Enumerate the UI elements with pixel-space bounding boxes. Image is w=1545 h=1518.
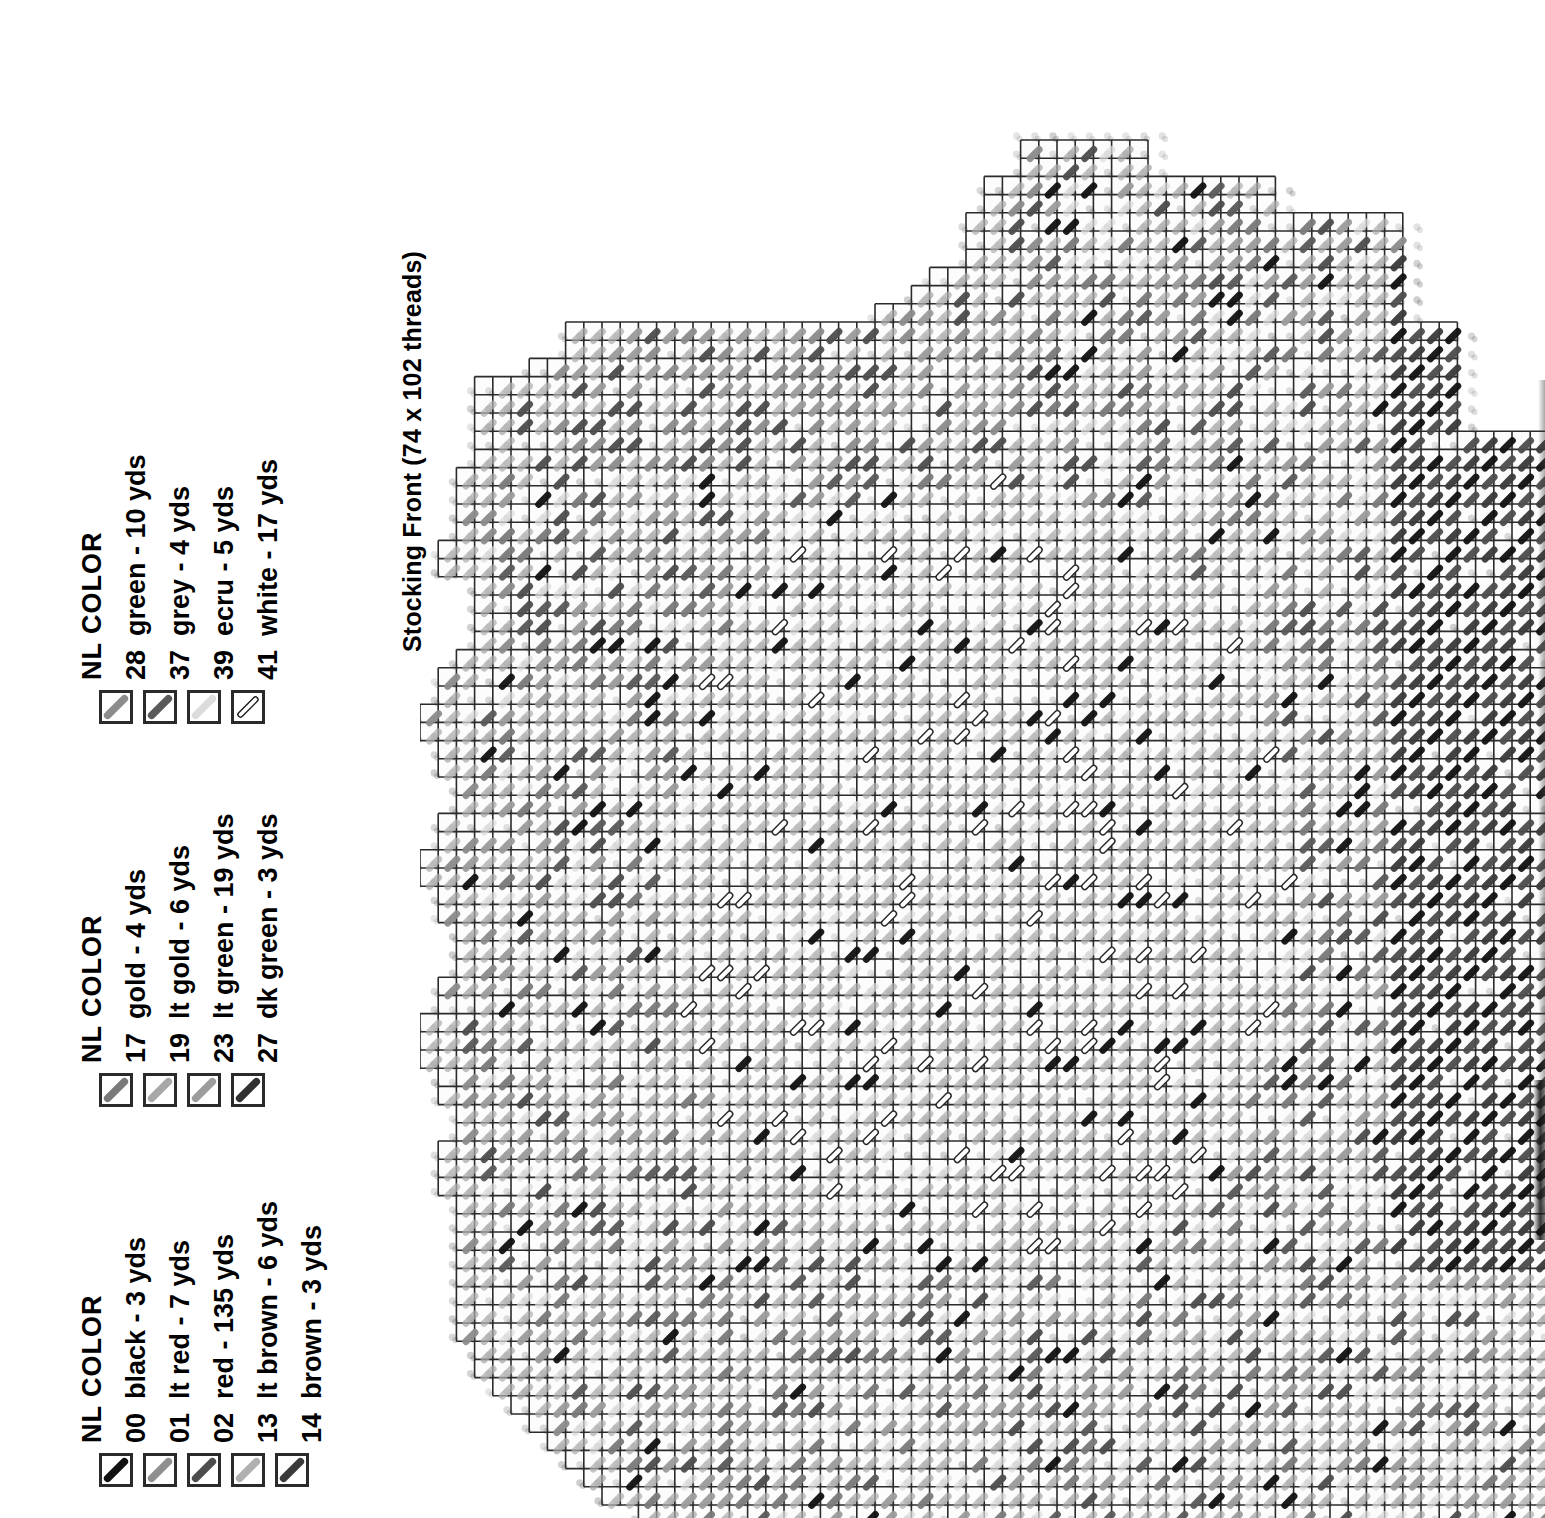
legend-entry-label: 17gold - 4 yds — [121, 869, 152, 1063]
legend-entry-color-name: lt gold - 6 yds — [165, 845, 195, 1019]
stitch-glyph-icon — [234, 1456, 262, 1484]
scan-edge-dark — [1533, 1080, 1545, 1240]
legend-entry-label: 39ecru - 5 yds — [209, 486, 240, 680]
legend-header: NL COLOR — [77, 1295, 108, 1444]
legend-entry-number: 01 — [165, 1399, 196, 1443]
legend-swatch-28 — [99, 690, 133, 724]
legend-entry-color-name: lt red - 7 yds — [165, 1240, 195, 1399]
legend-entry-number: 37 — [165, 636, 196, 680]
legend-entry-label: 23lt green - 19 yds — [209, 813, 240, 1063]
legend-swatch-17 — [99, 1073, 133, 1107]
stitch-glyph-icon — [102, 1076, 130, 1104]
legend-entry-color-name: lt brown - 6 yds — [253, 1201, 283, 1399]
legend-swatch-14 — [275, 1453, 309, 1487]
legend-entry-color-name: white - 17 yds — [253, 459, 283, 636]
legend-entry-number: 19 — [165, 1019, 196, 1063]
stitch-glyph-icon — [146, 1456, 174, 1484]
legend-swatch-01 — [143, 1453, 177, 1487]
stitch-glyph-icon — [234, 1076, 262, 1104]
legend-entry-color-name: grey - 4 yds — [165, 486, 195, 636]
legend-entry-number: 41 — [253, 636, 284, 680]
legend-entry-color-name: brown - 3 yds — [297, 1225, 327, 1399]
stitch-glyph-icon — [190, 1076, 218, 1104]
legend-entry-label: 28green - 10 yds — [121, 454, 152, 680]
legend-entry-number: 13 — [253, 1399, 284, 1443]
legend: NL COLOR28green - 10 yds37grey - 4 yds39… — [0, 0, 400, 1518]
stitch-glyph-icon — [146, 693, 174, 721]
legend-entry-label: 14brown - 3 yds — [297, 1225, 328, 1443]
legend-entry-number: 28 — [121, 636, 152, 680]
legend-entry-number: 39 — [209, 636, 240, 680]
legend-header: NL COLOR — [77, 915, 108, 1064]
legend-entry-color-name: gold - 4 yds — [121, 869, 151, 1019]
legend-entry-label: 00black - 3 yds — [121, 1237, 152, 1443]
stitch-glyph-icon — [190, 693, 218, 721]
legend-entry-label: 41white - 17 yds — [253, 459, 284, 680]
legend-entry-color-name: red - 135 yds — [209, 1234, 239, 1399]
legend-swatch-27 — [231, 1073, 265, 1107]
stitch-glyph-icon — [190, 1456, 218, 1484]
legend-entry-color-name: dk green - 3 yds — [253, 813, 283, 1019]
legend-entry-number: 17 — [121, 1019, 152, 1063]
legend-entry-number: 02 — [209, 1399, 240, 1443]
legend-entry-label: 27dk green - 3 yds — [253, 813, 284, 1063]
legend-entry-label: 19lt gold - 6 yds — [165, 845, 196, 1063]
legend-entry-label: 13lt brown - 6 yds — [253, 1201, 284, 1443]
stitch-glyph-icon — [146, 1076, 174, 1104]
legend-entry-color-name: green - 10 yds — [121, 454, 151, 636]
legend-entry-color-name: lt green - 19 yds — [209, 813, 239, 1019]
stitch-glyph-icon — [234, 693, 262, 721]
legend-swatch-02 — [187, 1453, 221, 1487]
legend-swatch-00 — [99, 1453, 133, 1487]
legend-swatch-23 — [187, 1073, 221, 1107]
legend-entry-label: 01lt red - 7 yds — [165, 1240, 196, 1443]
legend-swatch-13 — [231, 1453, 265, 1487]
legend-entry-label: 02red - 135 yds — [209, 1234, 240, 1443]
legend-header: NL COLOR — [77, 532, 108, 681]
scan-edge-shadow — [1538, 380, 1545, 1080]
legend-entry-color-name: ecru - 5 yds — [209, 486, 239, 636]
stitch-chart-canvas — [420, 120, 1545, 1518]
legend-entry-number: 23 — [209, 1019, 240, 1063]
stitch-glyph-icon — [102, 1456, 130, 1484]
legend-entry-number: 00 — [121, 1399, 152, 1443]
legend-entry-number: 14 — [297, 1399, 328, 1443]
legend-swatch-19 — [143, 1073, 177, 1107]
legend-swatch-37 — [143, 690, 177, 724]
stitch-chart — [420, 120, 1545, 1518]
legend-swatch-41 — [231, 690, 265, 724]
legend-swatch-39 — [187, 690, 221, 724]
legend-entry-color-name: black - 3 yds — [121, 1237, 151, 1399]
stitch-glyph-icon — [278, 1456, 306, 1484]
stitch-glyph-icon — [102, 693, 130, 721]
legend-entry-number: 27 — [253, 1019, 284, 1063]
legend-entry-label: 37grey - 4 yds — [165, 486, 196, 680]
